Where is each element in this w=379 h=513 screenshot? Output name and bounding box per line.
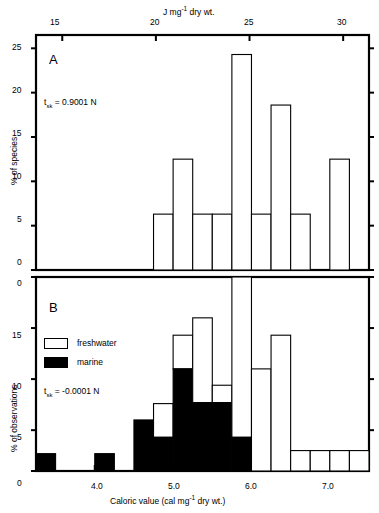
histogram-plot xyxy=(0,0,379,513)
panel-a-bar-1 xyxy=(173,159,193,270)
panel-b-bar-freshwater-8 xyxy=(193,318,213,403)
panel-b-bar-freshwater-10 xyxy=(232,277,252,437)
panel-a-bar-2 xyxy=(193,214,213,270)
panel-a-bar-3 xyxy=(212,214,232,270)
panel-a-bar-5 xyxy=(251,214,271,270)
panel-b-bar-marine-8 xyxy=(193,403,213,471)
panel-b-bar-freshwater-6 xyxy=(154,404,174,438)
panel-b-bar-marine-3 xyxy=(95,454,115,471)
panel-b-bar-freshwater-12 xyxy=(271,335,291,471)
panel-b-bar-freshwater-11 xyxy=(251,369,271,471)
panel-a-bar-6 xyxy=(271,105,291,270)
panel-b-bar-marine-6 xyxy=(154,437,174,471)
panel-b-bar-freshwater-13 xyxy=(291,451,311,471)
panel-a-bar-9 xyxy=(330,159,350,270)
panel-b-bar-marine-0 xyxy=(36,454,56,471)
panel-b-bar-marine-9 xyxy=(212,403,232,471)
panel-b-bar-marine-5 xyxy=(134,420,154,471)
panel-a-bar-7 xyxy=(291,214,311,270)
panel-a-bar-0 xyxy=(154,214,174,270)
panel-b-bar-freshwater-15 xyxy=(330,451,350,471)
panel-b-bar-freshwater-14 xyxy=(310,451,330,471)
panel-b-bar-freshwater-9 xyxy=(212,385,232,402)
panel-b-bar-freshwater-16 xyxy=(349,451,369,471)
panel-a-bar-4 xyxy=(232,55,252,270)
panel-b-bar-freshwater-7 xyxy=(173,335,193,369)
panel-b-bar-marine-7 xyxy=(173,369,193,471)
panel-b-bar-marine-10 xyxy=(232,437,252,471)
figure-container: J mg-1 dry wt. 15 20 25 30 25 20 15 10 5… xyxy=(0,0,379,513)
